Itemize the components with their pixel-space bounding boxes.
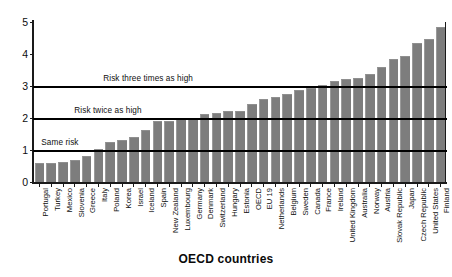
x-tick-label: Netherlands [278, 188, 286, 229]
x-tick-mark [98, 184, 99, 187]
y-tick-label: 1 [6, 145, 28, 155]
x-tick-mark [417, 184, 418, 187]
x-tick-mark [251, 184, 252, 187]
x-tick-mark [51, 184, 52, 187]
bar [389, 59, 398, 182]
y-tick-label: 5 [6, 17, 28, 27]
x-tick-mark [405, 184, 406, 187]
reference-line [33, 150, 447, 152]
x-tick-mark [169, 184, 170, 187]
x-tick-label: Italy [101, 188, 109, 202]
x-axis-title: OECD countries [0, 252, 452, 266]
x-tick-mark [228, 184, 229, 187]
x-tick-label: Portugal [42, 188, 50, 216]
bar [412, 43, 421, 182]
bar [294, 90, 303, 182]
x-tick-label: Israel [137, 188, 145, 207]
bar [58, 162, 67, 182]
reference-line-label: Risk twice as high [74, 106, 141, 115]
x-tick-label: Australia [361, 188, 369, 218]
y-tick-label: 3 [6, 81, 28, 91]
x-tick-mark [145, 184, 146, 187]
x-tick-label: Canada [314, 188, 322, 215]
x-tick-mark [263, 184, 264, 187]
x-tick-mark [181, 184, 182, 187]
x-tick-label: EU 19 [266, 188, 274, 209]
bar [377, 67, 386, 182]
bar [129, 137, 138, 182]
x-tick-label: Ireland [337, 188, 345, 211]
bar [341, 79, 350, 182]
x-tick-mark [86, 184, 87, 187]
x-tick-mark [216, 184, 217, 187]
bar [436, 27, 445, 182]
x-tick-label: Iceland [148, 188, 156, 213]
x-tick-mark [192, 184, 193, 187]
bar [365, 74, 374, 182]
y-tick-label: 4 [6, 49, 28, 59]
x-tick-label: Austria [384, 188, 392, 212]
x-tick-label: Slovak Republic [396, 188, 404, 243]
y-axis [0, 0, 28, 277]
x-tick-mark [204, 184, 205, 187]
x-tick-mark [440, 184, 441, 187]
x-tick-mark [346, 184, 347, 187]
x-tick-mark [287, 184, 288, 187]
x-tick-mark [358, 184, 359, 187]
x-tick-label: Finland [443, 188, 451, 213]
bar [94, 149, 103, 182]
y-tick-label: 0 [6, 177, 28, 187]
bar [223, 111, 232, 182]
x-tick-mark [299, 184, 300, 187]
x-tick-mark [74, 184, 75, 187]
bar [200, 114, 209, 182]
bar [282, 94, 291, 182]
x-tick-label: Slovenia [78, 188, 86, 217]
x-tick-label: Poland [113, 188, 121, 212]
x-tick-mark [322, 184, 323, 187]
x-tick-label: Czech Republic [420, 188, 428, 241]
bar [306, 88, 315, 182]
x-tick-mark [122, 184, 123, 187]
bar [424, 39, 433, 182]
x-tick-label: Spain [160, 188, 168, 208]
x-tick-mark [110, 184, 111, 187]
x-tick-label: Mexico [66, 188, 74, 212]
reference-line-label: Risk three times as high [103, 74, 193, 83]
bar [259, 99, 268, 182]
x-tick-label: Japan [408, 188, 416, 209]
x-tick-label: Turkey [54, 188, 62, 211]
bar [35, 163, 44, 182]
x-tick-label: New Zealand [172, 188, 180, 233]
x-tick-label: United States [432, 188, 440, 234]
x-tick-mark [310, 184, 311, 187]
x-tick-mark [393, 184, 394, 187]
x-tick-mark [157, 184, 158, 187]
x-tick-label: Belgium [290, 188, 298, 216]
reference-line-label: Same risk [41, 138, 78, 147]
reference-line [33, 118, 447, 120]
bar [330, 81, 339, 182]
x-tick-label: Denmark [207, 188, 215, 219]
bar [46, 163, 55, 182]
bar [82, 156, 91, 182]
bar [353, 78, 362, 182]
bar-series [33, 22, 446, 182]
bar [212, 113, 221, 182]
x-tick-label: Hungary [231, 188, 239, 217]
x-tick-mark [334, 184, 335, 187]
x-tick-label: Estonia [243, 188, 251, 213]
x-tick-mark [63, 184, 64, 187]
x-tick-label: France [325, 188, 333, 212]
x-tick-mark [381, 184, 382, 187]
bar [141, 130, 150, 182]
x-tick-label: Norway [373, 188, 381, 214]
x-tick-mark [369, 184, 370, 187]
bar [105, 142, 114, 182]
x-tick-labels: PortugalTurkeyMexicoSloveniaGreeceItalyP… [33, 184, 446, 248]
bar [117, 140, 126, 182]
x-tick-mark [39, 184, 40, 187]
x-tick-mark [275, 184, 276, 187]
bar [318, 85, 327, 182]
bar-chart: 012345 Risk three times as highRisk twic… [0, 0, 452, 277]
